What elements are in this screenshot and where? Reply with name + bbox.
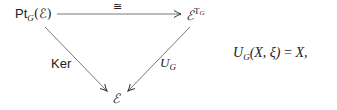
forgetful-symbol: U (160, 55, 169, 70)
node-category: ℰ (112, 92, 120, 105)
bottom-category-symbol: ℰ (112, 91, 120, 106)
eq-functor: U (233, 45, 243, 60)
monad-subscript: G (200, 9, 205, 17)
forgetful-subscript: G (169, 62, 176, 72)
eq-equals: = (284, 45, 292, 60)
equation: UG(X, ξ) = X, (233, 45, 307, 62)
eq-arguments: (X, ξ) (250, 45, 281, 60)
iso-label: ≅ (113, 1, 122, 12)
forgetful-arrow (128, 27, 190, 91)
points-argument: (ℰ) (34, 6, 52, 21)
points-label: Pt (15, 6, 27, 21)
node-points: PtG(ℰ) (15, 7, 52, 23)
forgetful-label: UG (160, 56, 176, 72)
category-symbol: ℰ (186, 8, 194, 23)
ker-label: Ker (51, 57, 71, 70)
commutative-diagram: PtG(ℰ) ℰTG ℰ ≅ Ker UG UG(X, ξ) = X, (0, 0, 337, 110)
node-algebras: ℰTG (186, 7, 205, 22)
eq-rhs: X, (295, 45, 307, 60)
